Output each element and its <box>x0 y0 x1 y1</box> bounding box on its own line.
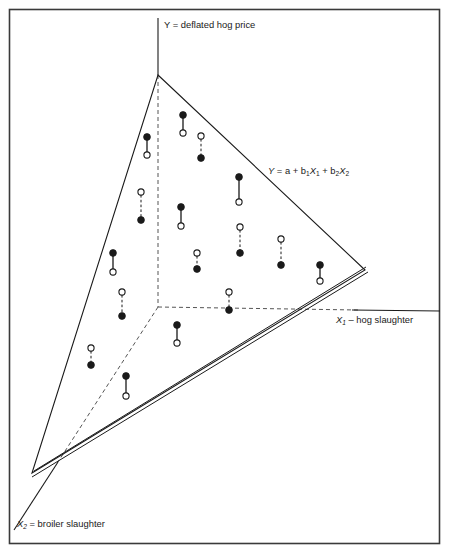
observed-point-marker <box>317 262 324 269</box>
observed-point-marker <box>174 322 181 329</box>
predicted-point-marker <box>138 189 144 195</box>
x2-axis-label-text: = broiler slaughter <box>27 518 105 529</box>
observed-point-marker <box>110 250 117 257</box>
predicted-point-marker <box>174 340 180 346</box>
x1-axis-label: X1 – hog slaughter <box>335 314 413 326</box>
observed-point-marker <box>144 134 151 141</box>
x2-axis-label: X2 = broiler slaughter <box>16 518 105 530</box>
predicted-point-marker <box>178 223 184 229</box>
regression-plane-diagram: Y = deflated hog price X1 – hog slaughte… <box>0 0 449 553</box>
observed-point-marker <box>237 250 244 257</box>
predicted-point-marker <box>123 393 129 399</box>
predicted-point-marker <box>180 130 186 136</box>
observed-point-marker <box>123 373 130 380</box>
predicted-point-marker <box>278 236 284 242</box>
observed-point-marker <box>138 217 145 224</box>
x1-axis-label-text: – hog slaughter <box>346 314 413 325</box>
eq-mid: = a + b <box>274 165 306 176</box>
observed-point-marker <box>180 112 187 119</box>
observed-point-marker <box>198 155 205 162</box>
observed-point-marker <box>278 262 285 269</box>
predicted-point-marker <box>226 289 232 295</box>
predicted-point-marker <box>198 133 204 139</box>
observed-point-marker <box>178 204 185 211</box>
eq-plus: + b <box>320 165 336 176</box>
predicted-point-marker <box>144 152 150 158</box>
observed-point-marker <box>119 313 126 320</box>
predicted-point-marker <box>317 278 323 284</box>
figure-frame <box>10 10 440 544</box>
predicted-point-marker <box>119 289 125 295</box>
observed-point-marker <box>226 307 233 314</box>
predicted-point-marker <box>236 199 242 205</box>
predicted-point-marker <box>194 250 200 256</box>
observed-point-marker <box>88 362 95 369</box>
predicted-point-marker <box>110 269 116 275</box>
observed-point-marker <box>194 266 201 273</box>
predicted-point-marker <box>237 224 243 230</box>
eq-sub-2b: 2 <box>346 170 350 177</box>
y-axis-label: Y = deflated hog price <box>164 19 255 30</box>
observed-point-marker <box>236 174 243 181</box>
predicted-point-marker <box>88 345 94 351</box>
figure-root: Y = deflated hog price X1 – hog slaughte… <box>0 0 449 553</box>
